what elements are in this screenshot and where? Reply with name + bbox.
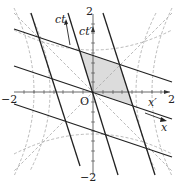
x-max-tick-label: 2 xyxy=(168,94,175,105)
ct-axis-label: ct xyxy=(55,14,66,25)
x-min-tick-label: −2 xyxy=(1,94,17,105)
origin-label: O xyxy=(80,96,89,107)
minkowski-diagram: ct ct′ x′ x O −2 2 2 −2 xyxy=(0,0,178,185)
ct-arrow xyxy=(66,22,70,45)
x-axis-label: x xyxy=(161,122,167,133)
ct-prime-axis-label: ct′ xyxy=(79,26,92,37)
x-prime-axis-label: x′ xyxy=(148,97,157,108)
y-min-tick-label: −2 xyxy=(80,172,96,183)
y-max-tick-label: 2 xyxy=(86,6,93,17)
